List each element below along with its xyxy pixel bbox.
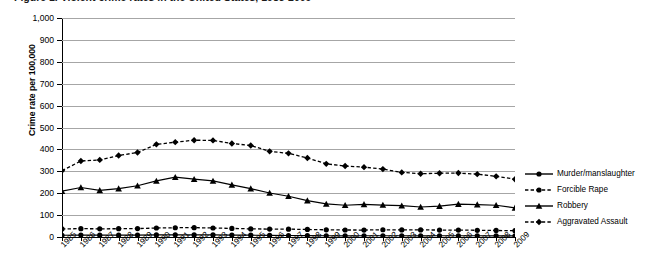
data-point-marker bbox=[172, 139, 178, 145]
series-3 bbox=[62, 174, 515, 211]
data-point-marker bbox=[361, 164, 367, 170]
chart-title: Figure 1. Violent crime rates in the Uni… bbox=[14, 0, 311, 3]
chart-legend: Murder/manslaughterForcible RapeRobberyA… bbox=[524, 166, 652, 230]
series-1 bbox=[62, 232, 515, 238]
data-point-marker bbox=[192, 225, 197, 230]
data-point-marker bbox=[343, 227, 348, 232]
data-point-marker bbox=[248, 226, 253, 231]
data-point-marker bbox=[323, 161, 329, 167]
y-axis-tick-label: 0 bbox=[0, 233, 54, 242]
data-point-marker bbox=[304, 155, 310, 161]
data-point-marker bbox=[229, 140, 235, 146]
legend-item-1[interactable]: Murder/manslaughter bbox=[524, 166, 652, 182]
data-point-marker bbox=[134, 149, 140, 155]
data-point-marker bbox=[417, 171, 423, 177]
data-point-marker bbox=[475, 233, 480, 238]
series-line bbox=[62, 140, 515, 179]
series-line bbox=[62, 177, 515, 208]
data-point-marker bbox=[456, 227, 461, 232]
data-point-marker bbox=[494, 233, 499, 238]
data-point-marker bbox=[267, 226, 272, 231]
data-point-marker bbox=[380, 227, 385, 232]
data-point-marker bbox=[455, 170, 461, 176]
data-point-marker bbox=[380, 233, 385, 238]
data-point-marker bbox=[493, 173, 499, 179]
legend-item-label: Forcible Rape bbox=[554, 186, 608, 194]
legend-item-3[interactable]: Robbery bbox=[524, 198, 652, 214]
data-point-marker bbox=[62, 233, 65, 238]
y-axis-tick-label: 800 bbox=[0, 58, 54, 67]
data-point-marker bbox=[229, 232, 234, 237]
y-axis-tick-label: 300 bbox=[0, 167, 54, 176]
y-axis-tick-label: 500 bbox=[0, 124, 54, 133]
data-point-marker bbox=[115, 152, 121, 158]
data-point-marker bbox=[62, 226, 65, 231]
data-point-marker bbox=[324, 227, 329, 232]
data-point-marker bbox=[305, 227, 310, 232]
diamond-marker-icon bbox=[524, 215, 554, 229]
circle-marker-icon bbox=[524, 183, 554, 197]
data-point-marker bbox=[342, 163, 348, 169]
y-axis-tick-label: 900 bbox=[0, 36, 54, 45]
data-point-marker bbox=[536, 171, 541, 176]
y-axis-tick-label: 1,000 bbox=[0, 14, 54, 23]
data-point-marker bbox=[210, 225, 215, 230]
series-2 bbox=[62, 225, 515, 233]
legend-item-label: Robbery bbox=[554, 202, 588, 210]
legend-item-label: Aggravated Assault bbox=[554, 218, 628, 226]
legend-item-4[interactable]: Aggravated Assault bbox=[524, 214, 652, 230]
data-point-marker bbox=[418, 233, 423, 238]
data-point-marker bbox=[210, 137, 216, 143]
data-point-marker bbox=[361, 227, 366, 232]
data-point-marker bbox=[512, 176, 515, 182]
data-point-marker bbox=[437, 233, 442, 238]
data-point-marker bbox=[436, 170, 442, 176]
data-point-marker bbox=[191, 137, 197, 143]
data-point-marker bbox=[536, 219, 542, 225]
data-point-marker bbox=[116, 233, 121, 238]
data-point-marker bbox=[494, 228, 499, 233]
data-point-marker bbox=[305, 233, 310, 238]
data-point-marker bbox=[475, 228, 480, 233]
data-point-marker bbox=[266, 148, 272, 154]
y-axis-tick-label: 100 bbox=[0, 211, 54, 220]
series-plot-area bbox=[62, 18, 515, 238]
data-point-marker bbox=[173, 225, 178, 230]
y-axis-tick-label: 600 bbox=[0, 102, 54, 111]
data-point-marker bbox=[229, 226, 234, 231]
data-point-marker bbox=[399, 169, 405, 175]
data-point-marker bbox=[173, 232, 178, 237]
data-point-marker bbox=[78, 158, 84, 164]
legend-item-2[interactable]: Forcible Rape bbox=[524, 182, 652, 198]
data-point-marker bbox=[399, 233, 404, 238]
data-point-marker bbox=[285, 150, 291, 156]
data-point-marker bbox=[97, 233, 102, 238]
data-point-marker bbox=[536, 187, 541, 192]
data-point-marker bbox=[456, 233, 461, 238]
data-point-marker bbox=[135, 226, 140, 231]
data-point-marker bbox=[97, 226, 102, 231]
circle-marker-icon bbox=[524, 167, 554, 181]
data-point-marker bbox=[248, 233, 253, 238]
data-point-marker bbox=[154, 232, 159, 237]
data-point-marker bbox=[380, 166, 386, 172]
data-point-marker bbox=[361, 233, 366, 238]
data-point-marker bbox=[192, 232, 197, 237]
data-point-marker bbox=[399, 227, 404, 232]
data-point-marker bbox=[97, 157, 103, 163]
triangle-marker-icon bbox=[524, 199, 554, 213]
legend-item-label: Murder/manslaughter bbox=[554, 170, 635, 178]
data-point-marker bbox=[474, 171, 480, 177]
data-point-marker bbox=[78, 226, 83, 231]
data-point-marker bbox=[267, 233, 272, 238]
data-point-marker bbox=[324, 233, 329, 238]
data-point-marker bbox=[286, 227, 291, 232]
data-point-marker bbox=[512, 228, 515, 233]
data-point-marker bbox=[437, 227, 442, 232]
data-point-marker bbox=[78, 233, 83, 238]
data-point-marker bbox=[62, 167, 65, 173]
data-point-marker bbox=[210, 232, 215, 237]
data-point-marker bbox=[153, 141, 159, 147]
y-axis-tick-label: 200 bbox=[0, 189, 54, 198]
line-chart: Figure 1. Violent crime rates in the Uni… bbox=[0, 0, 652, 273]
